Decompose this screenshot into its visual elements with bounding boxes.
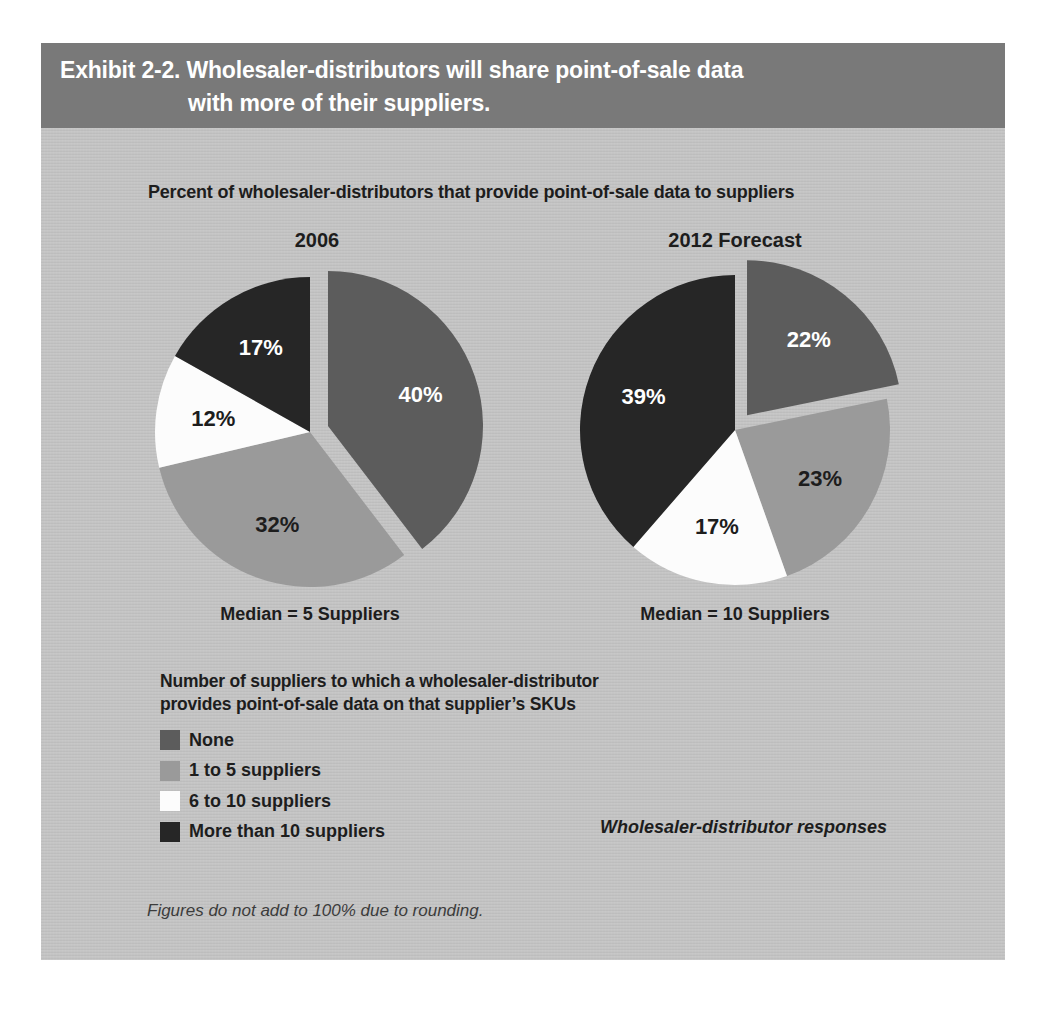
- legend-item-more-than-10: More than 10 suppliers: [160, 817, 599, 848]
- legend-title-line1: Number of suppliers to which a wholesale…: [160, 670, 599, 693]
- legend-label-more-than-10: More than 10 suppliers: [189, 821, 385, 842]
- exhibit-panel: Exhibit 2-2. Wholesaler-distributors wil…: [41, 43, 1005, 960]
- exhibit-title-line1: Exhibit 2-2. Wholesaler-distributors wil…: [60, 59, 743, 82]
- pie-slice-value-label-6-to-10-suppliers: 17%: [695, 514, 739, 539]
- legend-swatch-more-than-10: [160, 822, 180, 842]
- legend-title-line2: provides point-of-sale data on that supp…: [160, 693, 599, 716]
- chart-subtitle: Percent of wholesaler-distributors that …: [148, 182, 794, 203]
- pie-slice-value-label-more-than-10-suppliers: 17%: [239, 335, 283, 360]
- pie-title-2006: 2006: [295, 229, 340, 252]
- pie-slice-value-label-1-to-5-suppliers: 23%: [798, 466, 842, 491]
- rounding-footnote: Figures do not add to 100% due to roundi…: [147, 901, 483, 921]
- legend-swatch-none: [160, 730, 180, 750]
- legend-label-none: None: [189, 730, 234, 751]
- legend-swatch-1-to-5: [160, 761, 180, 781]
- pie-chart-2012-forecast: 22%23%17%39%: [555, 250, 915, 610]
- pie-slice-value-label-1-to-5-suppliers: 32%: [255, 512, 299, 537]
- pie-slice-value-label-none: 22%: [787, 327, 831, 352]
- median-caption-2012: Median = 10 Suppliers: [640, 604, 830, 625]
- median-caption-2006: Median = 5 Suppliers: [220, 604, 400, 625]
- legend: Number of suppliers to which a wholesale…: [160, 670, 599, 847]
- legend-item-none: None: [160, 725, 599, 756]
- legend-swatch-6-to-10: [160, 791, 180, 811]
- legend-label-1-to-5: 1 to 5 suppliers: [189, 760, 321, 781]
- exhibit-title-line2: with more of their suppliers.: [188, 92, 490, 115]
- pie-title-2012-forecast: 2012 Forecast: [668, 229, 801, 252]
- pie-chart-2006: 40%32%12%17%: [130, 252, 490, 612]
- legend-item-1-to-5: 1 to 5 suppliers: [160, 756, 599, 787]
- source-note: Wholesaler-distributor responses: [600, 817, 887, 838]
- exhibit-header-bar: Exhibit 2-2. Wholesaler-distributors wil…: [41, 43, 1005, 128]
- legend-item-6-to-10: 6 to 10 suppliers: [160, 786, 599, 817]
- pie-slice-value-label-none: 40%: [398, 382, 442, 407]
- legend-items: None 1 to 5 suppliers 6 to 10 suppliers …: [160, 725, 599, 847]
- pie-slice-value-label-6-to-10-suppliers: 12%: [191, 406, 235, 431]
- pie-slice-value-label-more-than-10-suppliers: 39%: [621, 384, 665, 409]
- legend-label-6-to-10: 6 to 10 suppliers: [189, 791, 331, 812]
- legend-title: Number of suppliers to which a wholesale…: [160, 670, 599, 716]
